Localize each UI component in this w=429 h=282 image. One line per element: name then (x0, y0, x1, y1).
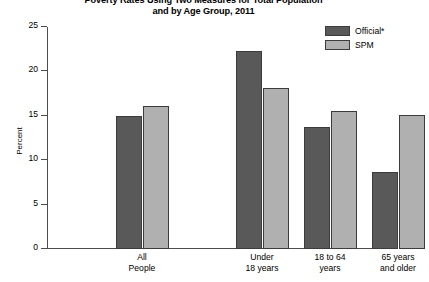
x-axis-category-label: 65 yearsand older (353, 252, 429, 274)
x-axis-category-label-line: and older (353, 263, 429, 274)
y-axis-tick: 5 (41, 204, 47, 205)
legend-label: SPM (355, 40, 374, 51)
bar-group (236, 27, 289, 249)
bar (116, 116, 142, 249)
y-axis-tick-label: 20 (28, 64, 38, 75)
x-axis-category-label-line: All (97, 252, 187, 263)
y-axis-tick-label: 5 (33, 198, 38, 209)
y-axis-tick-label: 0 (33, 242, 38, 253)
bar (263, 88, 289, 249)
bar-group (372, 27, 425, 249)
x-axis-category-label-line: 65 years (353, 252, 429, 263)
y-axis-title: Percent (15, 127, 24, 155)
bar (399, 115, 425, 249)
x-axis-category-label: AllPeople (97, 252, 187, 274)
bar-group (304, 27, 357, 249)
y-axis-tick-label: 10 (28, 153, 38, 164)
y-axis-tick-label: 25 (28, 20, 38, 31)
chart-title: Poverty Rates Using Two Measures for Tot… (0, 0, 407, 16)
bar (331, 111, 357, 249)
bar (143, 106, 169, 249)
bar (372, 172, 398, 249)
chart-legend: Official*SPM (325, 25, 405, 53)
y-axis-tick: 25 (41, 26, 47, 27)
y-axis-tick: 10 (41, 159, 47, 160)
chart-title-line-2: and by Age Group, 2011 (0, 6, 407, 17)
legend-swatch (325, 26, 350, 36)
y-axis-tick: 0 (41, 248, 47, 249)
legend-item: Official* (325, 25, 405, 37)
bar (304, 127, 330, 249)
bars-layer (48, 27, 391, 249)
legend-label: Official* (355, 26, 384, 37)
y-axis-tick-label: 15 (28, 109, 38, 120)
y-axis-tick: 20 (41, 70, 47, 71)
plot-area: 0510152025 AllPeopleUnder18 years18 to 6… (47, 27, 391, 249)
bar-group (116, 27, 169, 249)
legend-item: SPM (325, 39, 405, 51)
y-axis-tick: 15 (41, 115, 47, 116)
x-axis-category-label-line: People (97, 263, 187, 274)
legend-swatch (325, 40, 350, 50)
bar (236, 51, 262, 249)
